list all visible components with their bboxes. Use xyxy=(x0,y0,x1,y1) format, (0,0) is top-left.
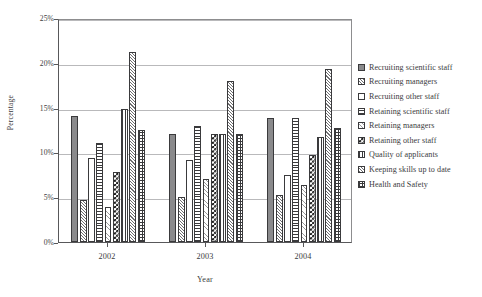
y-tick-mark xyxy=(54,153,58,154)
legend-item-retaining-managers: Retaining managers xyxy=(358,118,482,133)
y-tick-label: 15% xyxy=(28,105,54,113)
y-tick-label: 0% xyxy=(28,239,54,247)
bar-2003-health-and-safety xyxy=(236,134,243,242)
bar-2004-recruiting-other-staff xyxy=(284,175,291,242)
legend-item-quality-of-applicants: Quality of applicants xyxy=(358,148,482,163)
x-tick-label-2003: 2003 xyxy=(175,252,235,261)
x-axis-title: Year xyxy=(58,275,352,284)
bar-2004-retaining-managers xyxy=(301,185,308,242)
legend-item-retaining-other-staff: Retaining other staff xyxy=(358,133,482,148)
x-tick-mark xyxy=(303,243,304,247)
bar-2002-keeping-skills-up-to-date xyxy=(129,52,136,242)
y-tick-mark xyxy=(54,198,58,199)
legend-swatch-icon xyxy=(358,64,365,71)
legend-swatch-icon xyxy=(358,137,365,144)
legend-item-keeping-skills-up-to-date: Keeping skills up to date xyxy=(358,162,482,177)
y-tick-mark xyxy=(54,19,58,20)
bar-2002-recruiting-scientific-staff xyxy=(71,116,78,242)
legend-label: Recruiting other staff xyxy=(369,92,439,101)
y-tick-mark xyxy=(54,64,58,65)
y-axis: 0%5%10%15%20%25% xyxy=(24,0,54,297)
bar-2003-retaining-other-staff xyxy=(211,134,218,242)
legend-item-retaining-scientific-staff: Retaining scientific staff xyxy=(358,104,482,119)
bar-2002-quality-of-applicants xyxy=(121,109,128,243)
bar-2002-retaining-managers xyxy=(105,207,112,242)
bars-layer xyxy=(59,20,351,242)
bar-2004-recruiting-scientific-staff xyxy=(267,118,274,242)
x-tick-label-2004: 2004 xyxy=(273,252,333,261)
legend: Recruiting scientific staffRecruiting ma… xyxy=(358,60,482,191)
legend-label: Quality of applicants xyxy=(369,150,438,159)
y-axis-title: Percentage xyxy=(6,83,15,143)
legend-swatch-icon xyxy=(358,181,365,188)
bar-2004-retaining-other-staff xyxy=(309,155,316,242)
bar-2004-keeping-skills-up-to-date xyxy=(325,69,332,242)
x-tick-mark xyxy=(107,243,108,247)
legend-item-health-and-safety: Health and Safety xyxy=(358,177,482,192)
legend-label: Retaining other staff xyxy=(369,136,436,145)
legend-label: Health and Safety xyxy=(369,180,428,189)
y-tick-mark xyxy=(54,109,58,110)
bar-2003-recruiting-managers xyxy=(178,197,185,242)
legend-label: Recruiting managers xyxy=(369,77,437,86)
plot-area xyxy=(58,19,352,243)
legend-label: Keeping skills up to date xyxy=(369,165,451,174)
bar-2003-recruiting-other-staff xyxy=(186,160,193,242)
bar-2002-recruiting-managers xyxy=(80,200,87,242)
bar-2003-retaining-scientific-staff xyxy=(194,126,201,242)
bar-2003-quality-of-applicants xyxy=(219,134,226,242)
bar-2002-recruiting-other-staff xyxy=(88,158,95,242)
bar-2002-retaining-other-staff xyxy=(113,172,120,242)
legend-swatch-icon xyxy=(358,151,365,158)
legend-item-recruiting-other-staff: Recruiting other staff xyxy=(358,89,482,104)
chart-container: Percentage 0%5%10%15%20%25% 200220032004… xyxy=(0,0,482,297)
x-tick-label-2002: 2002 xyxy=(77,252,137,261)
bar-2002-health-and-safety xyxy=(138,130,145,242)
bar-2004-recruiting-managers xyxy=(276,195,283,242)
y-tick-mark xyxy=(54,243,58,244)
legend-swatch-icon xyxy=(358,93,365,100)
legend-swatch-icon xyxy=(358,166,365,173)
bar-2003-retaining-managers xyxy=(203,179,210,242)
bar-2004-quality-of-applicants xyxy=(317,137,324,242)
bar-2003-recruiting-scientific-staff xyxy=(169,134,176,242)
legend-item-recruiting-scientific-staff: Recruiting scientific staff xyxy=(358,60,482,75)
bar-2003-keeping-skills-up-to-date xyxy=(227,81,234,242)
y-tick-label: 5% xyxy=(28,194,54,202)
y-tick-label: 20% xyxy=(28,60,54,68)
legend-label: Retaining scientific staff xyxy=(369,107,450,116)
legend-swatch-icon xyxy=(358,78,365,85)
legend-swatch-icon xyxy=(358,122,365,129)
bar-2004-retaining-scientific-staff xyxy=(292,118,299,242)
legend-swatch-icon xyxy=(358,108,365,115)
legend-label: Retaining managers xyxy=(369,121,434,130)
bar-2002-retaining-scientific-staff xyxy=(96,143,103,242)
x-tick-mark xyxy=(205,243,206,247)
legend-item-recruiting-managers: Recruiting managers xyxy=(358,75,482,90)
legend-label: Recruiting scientific staff xyxy=(369,63,452,72)
y-tick-label: 10% xyxy=(28,149,54,157)
y-tick-label: 25% xyxy=(28,15,54,23)
bar-2004-health-and-safety xyxy=(334,128,341,242)
